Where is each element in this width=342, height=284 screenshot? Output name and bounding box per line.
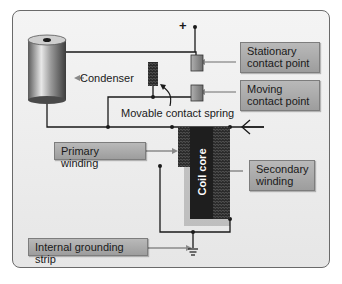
stationary-contact-label: Stationary contact point — [240, 42, 320, 73]
moving-line2: contact point — [247, 95, 313, 107]
ground-icon — [188, 249, 198, 255]
movable-spring-label: Movable contact spring — [121, 107, 234, 119]
condenser-icon — [28, 35, 66, 104]
secondary-line2: winding — [256, 175, 308, 187]
stationary-contact-icon — [191, 55, 203, 71]
stationary-line1: Stationary — [247, 45, 313, 57]
movable-spring-icon — [148, 62, 171, 106]
output-terminal-icon — [242, 120, 264, 134]
condenser-label: Condenser — [80, 72, 134, 84]
coil-core-label: Coil core — [196, 146, 208, 198]
secondary-winding-label: Secondary winding — [249, 160, 315, 191]
positive-terminal-label: + — [179, 20, 187, 32]
stationary-line2: contact point — [247, 57, 313, 69]
moving-contact-icon — [191, 85, 203, 101]
grounding-strip-label: Internal grounding strip — [28, 238, 148, 256]
wires — [47, 28, 264, 248]
secondary-line1: Secondary — [256, 163, 308, 175]
moving-contact-label: Moving contact point — [240, 80, 320, 111]
primary-winding-label: Primary winding — [54, 142, 146, 160]
moving-line1: Moving — [247, 83, 313, 95]
